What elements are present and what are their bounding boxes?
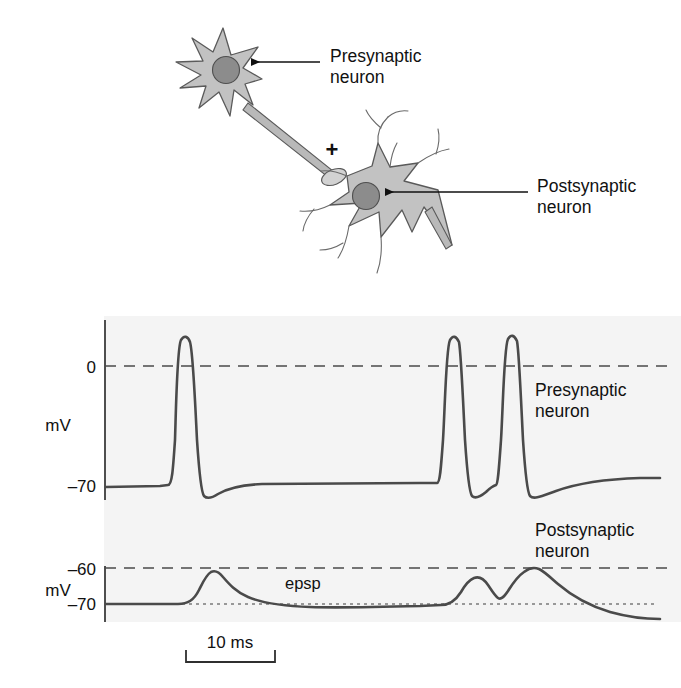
synapse-plus-sign: + — [326, 137, 339, 162]
postsynaptic-trace-label-line1: Postsynaptic — [535, 520, 634, 540]
time-scale-bar: 10 ms — [186, 633, 275, 662]
presynaptic-trace-label-line2: neuron — [535, 401, 590, 421]
scale-bar-label: 10 ms — [207, 633, 253, 652]
presynaptic-axis-label-mv: mV — [45, 416, 71, 435]
presynaptic-tick-0: 0 — [87, 358, 96, 377]
presynaptic-trace-panel: 0 –70 mV Presynaptic neuron — [45, 316, 681, 506]
presynaptic-trace-label-line1: Presynaptic — [535, 380, 627, 400]
presynaptic-tick-minus70: –70 — [68, 477, 96, 496]
postsynaptic-nucleus — [353, 183, 380, 210]
postsynaptic-neuron-label-line2: neuron — [537, 197, 592, 217]
postsynaptic-neuron-label-line1: Postsynaptic — [537, 176, 636, 196]
postsynaptic-tick-minus60: –60 — [68, 560, 96, 579]
presynaptic-neuron-label-line1: Presynaptic — [330, 46, 422, 66]
epsp-label: epsp — [285, 574, 321, 592]
postsynaptic-tick-minus70: –70 — [68, 595, 96, 614]
presynaptic-neuron-label-line2: neuron — [330, 67, 385, 87]
presynaptic-axon — [243, 103, 333, 177]
synaptic-transmission-figure: + 0 –70 mV Presynaptic neuron –60 –70 mV… — [0, 0, 681, 688]
postsynaptic-axis-label-mv: mV — [45, 581, 71, 600]
postsynaptic-trace-panel: –60 –70 mV epsp Postsynaptic neuron — [45, 506, 681, 622]
presynaptic-nucleus — [213, 57, 240, 84]
postsynaptic-trace-label-line2: neuron — [535, 541, 590, 561]
